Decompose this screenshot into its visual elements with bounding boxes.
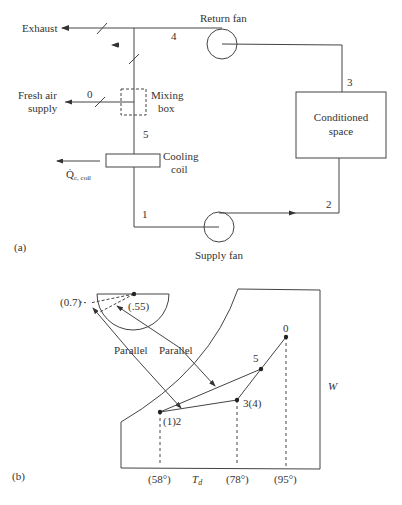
conditioned-space-label-1: Conditioned: [314, 111, 369, 123]
w-axis-label: W: [328, 380, 338, 392]
chart-x-axis: [121, 468, 320, 469]
tick-58-label: (58°): [148, 473, 171, 486]
fresh-air-label-1: Fresh air: [18, 89, 57, 101]
parallel-arrow-left-to-line: [133, 355, 181, 408]
heat-removed-symbol: Q̇: [66, 168, 74, 180]
cooling-coil: [106, 154, 160, 167]
cooling-coil-label-2: coil: [171, 163, 188, 175]
td-axis-label: Td: [192, 473, 203, 487]
state-5-chart-label: 5: [253, 352, 259, 364]
shr-outer-label: (0.7): [60, 296, 81, 309]
parallel-right-label: Parallel: [159, 344, 193, 356]
state-0-chart-label: 0: [283, 322, 289, 334]
parallel-left-label: Parallel: [114, 344, 148, 356]
state-12-chart-label: (1)2: [163, 415, 181, 428]
parallel-arrow-right-to-protractor: [117, 306, 180, 348]
state-point-12: [158, 410, 162, 414]
state-2-label: 2: [326, 198, 332, 210]
state-34-chart-label: 3(4): [243, 397, 262, 410]
cooling-coil-label-1: Cooling: [163, 150, 199, 162]
state-5-label: 5: [143, 128, 149, 140]
mixing-box-label-2: box: [158, 102, 175, 114]
protractor-origin-dot: [132, 292, 136, 296]
tick-78-label: (78°): [226, 473, 249, 486]
td-axis-sub: d: [198, 478, 203, 487]
state-point-5: [259, 367, 263, 371]
tick-95-label: (95°): [274, 473, 297, 486]
exhaust-label: Exhaust: [22, 22, 57, 34]
panel-a-label: (a): [14, 241, 27, 254]
flow-arrowhead-supply: [289, 211, 296, 216]
psychrometric-chart: [80, 289, 320, 469]
flow-arrowhead-return: [111, 43, 118, 48]
state-1-label: 1: [142, 208, 148, 220]
shr-inner-label: (.55): [128, 300, 149, 313]
return-duct-from-space: [222, 44, 342, 45]
state-4-label: 4: [171, 30, 177, 42]
supply-fan-label: Supply fan: [195, 249, 243, 261]
process-12-to-34: [160, 400, 237, 412]
panel-b-label: (b): [12, 470, 25, 483]
return-fan-label: Return fan: [200, 12, 247, 24]
diagram-canvas: Exhaust Return fan 4 3 Conditioned space…: [0, 0, 402, 505]
conditioned-space-label-2: space: [329, 125, 354, 137]
chart-top-edge: [238, 289, 320, 290]
state-3-label: 3: [347, 76, 353, 88]
mixing-box-label-1: Mixing: [151, 89, 184, 101]
heat-removed-subscript: c, coil: [74, 174, 91, 182]
process-0-to-5: [261, 337, 286, 369]
heat-removed-label: Q̇c, coil: [66, 168, 91, 182]
state-point-34: [235, 398, 239, 402]
fresh-air-label-2: supply: [28, 102, 58, 114]
state-0-label: 0: [87, 88, 93, 100]
state-point-0: [284, 335, 288, 339]
